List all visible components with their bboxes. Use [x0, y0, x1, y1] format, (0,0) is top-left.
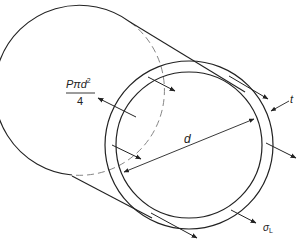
- svg-text:Pπd2: Pπd2: [66, 77, 91, 90]
- pressure-arrow-upper-inner: [148, 77, 175, 91]
- svg-text:σL: σL: [263, 222, 273, 234]
- force-label: Pπd2 4: [66, 77, 95, 107]
- stress-arrow-bottom-right: [231, 210, 256, 223]
- cylinder-diagram: Pπd2 4 d t σL: [0, 0, 308, 249]
- thickness-label: t: [290, 93, 294, 105]
- bottom-tangent-line: [72, 176, 152, 218]
- top-tangent-line: [130, 22, 245, 92]
- thickness-arrow: [271, 101, 289, 111]
- diameter-label: d: [184, 132, 191, 146]
- stress-label: σL: [263, 222, 273, 234]
- svg-text:4: 4: [77, 95, 83, 107]
- stress-arrow-right: [266, 143, 296, 158]
- back-circle-visible: [0, 5, 130, 175]
